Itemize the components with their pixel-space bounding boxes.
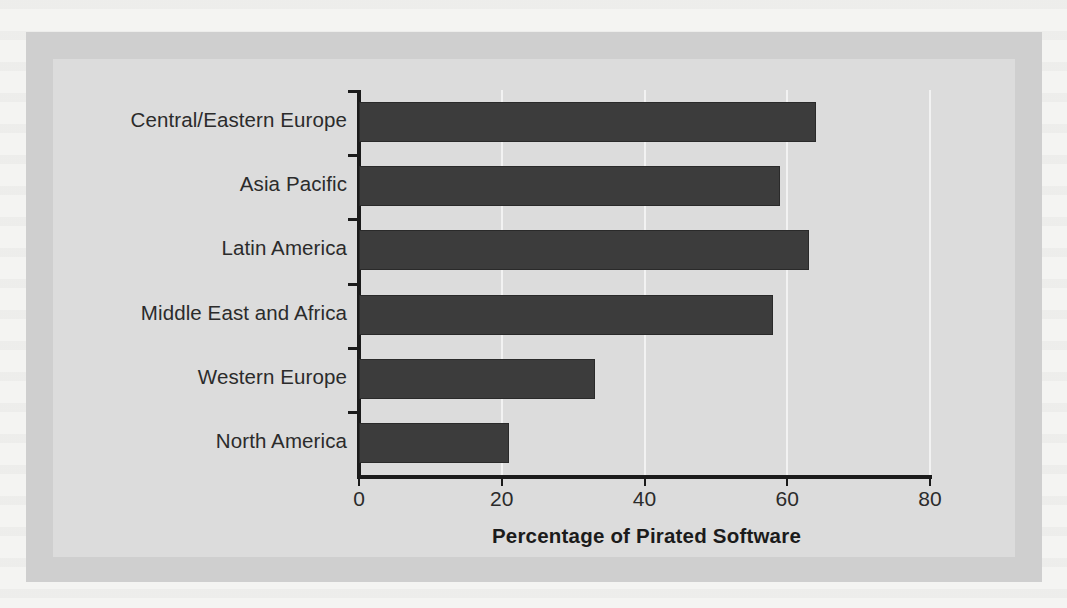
y-tick: [348, 90, 359, 93]
gridline-20: [501, 90, 503, 475]
y-tick: [348, 154, 359, 157]
category-label: Central/Eastern Europe: [47, 108, 347, 132]
gridline-60: [786, 90, 788, 475]
gridline-40: [644, 90, 646, 475]
bar-chart: Central/Eastern EuropeAsia PacificLatin …: [26, 32, 1042, 582]
y-tick: [348, 218, 359, 221]
y-tick: [348, 411, 359, 414]
x-tick-40: [644, 475, 646, 486]
x-tick-label-80: 80: [895, 487, 965, 511]
x-tick-label-40: 40: [610, 487, 680, 511]
y-tick: [348, 347, 359, 350]
category-label: Asia Pacific: [47, 172, 347, 196]
x-axis-title: Percentage of Pirated Software: [359, 524, 934, 548]
x-tick-20: [501, 475, 503, 486]
bar: [359, 102, 816, 142]
x-tick-60: [786, 475, 788, 486]
figure-frame: Central/Eastern EuropeAsia PacificLatin …: [26, 32, 1042, 582]
x-tick-0: [358, 475, 360, 486]
category-label: Middle East and Africa: [47, 301, 347, 325]
y-tick: [348, 283, 359, 286]
category-label: Latin America: [47, 236, 347, 260]
category-label: North America: [47, 429, 347, 453]
x-tick-label-0: 0: [324, 487, 394, 511]
bar: [359, 359, 595, 399]
bar: [359, 230, 809, 270]
gridline-80: [929, 90, 931, 475]
category-label: Western Europe: [47, 365, 347, 389]
bar: [359, 295, 773, 335]
bar: [359, 166, 780, 206]
bar: [359, 423, 509, 463]
x-tick-label-60: 60: [752, 487, 822, 511]
x-tick-label-20: 20: [467, 487, 537, 511]
x-tick-80: [929, 475, 931, 486]
